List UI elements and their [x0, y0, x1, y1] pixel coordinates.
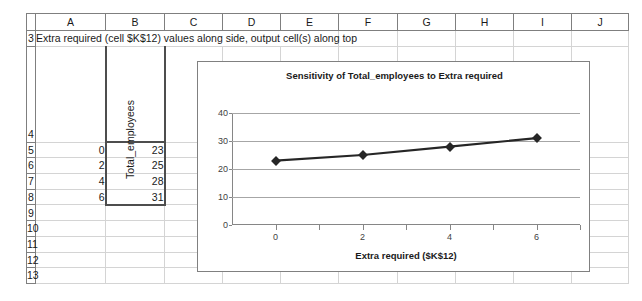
x-tick-mark: [319, 225, 320, 230]
vertical-label: Total_employees: [125, 100, 136, 179]
column-header-a[interactable]: A: [36, 14, 106, 31]
row-header-13[interactable]: 13: [27, 268, 36, 284]
x-axis-label: Extra required ($K$12): [232, 250, 580, 261]
select-all-corner[interactable]: [27, 14, 36, 31]
x-tick-mark: [276, 225, 277, 230]
y-tick-label: 10: [218, 192, 228, 202]
sensitivity-chart[interactable]: Sensitivity of Total_employees to Extra …: [197, 61, 590, 272]
cell-a4[interactable]: [36, 47, 106, 142]
x-tick-mark: [363, 225, 364, 230]
x-tick-mark: [406, 225, 407, 230]
row-header-3[interactable]: 3: [27, 30, 36, 47]
column-header-c[interactable]: C: [165, 14, 223, 31]
column-header-i[interactable]: I: [514, 14, 572, 31]
cell-b13[interactable]: [106, 268, 165, 284]
column-header-d[interactable]: D: [223, 14, 281, 31]
row-header-7[interactable]: 7: [27, 174, 36, 190]
y-tick-label: 40: [218, 108, 228, 118]
cell-b8[interactable]: 31: [106, 189, 165, 205]
cell-a9[interactable]: [36, 205, 106, 221]
spreadsheet-screenshot: A B C D E F G H I J 3 Extra required (ce…: [0, 0, 642, 301]
column-header-b[interactable]: B: [106, 14, 165, 31]
y-tick-label: 30: [218, 136, 228, 146]
x-tick-mark: [537, 225, 538, 230]
cell-a6[interactable]: 2: [36, 158, 106, 174]
row-header-5[interactable]: 5: [27, 142, 36, 158]
cell-b9[interactable]: [106, 205, 165, 221]
x-tick-mark: [493, 225, 494, 230]
cell-a7[interactable]: 4: [36, 174, 106, 190]
x-tick-mark: [450, 225, 451, 230]
column-header-h[interactable]: H: [456, 14, 514, 31]
y-tick-mark: [229, 225, 232, 226]
x-tick-label: 0: [273, 232, 278, 242]
cell-g3[interactable]: [398, 30, 456, 47]
row-header-8[interactable]: 8: [27, 189, 36, 205]
column-header-row[interactable]: A B C D E F G H I J: [27, 14, 629, 31]
cell-a3-note[interactable]: Extra required (cell $K$12) values along…: [36, 30, 339, 47]
cell-b4-total-employees-header[interactable]: Total_employees: [106, 47, 165, 142]
column-header-j[interactable]: J: [572, 14, 629, 31]
y-tick-label: 20: [218, 164, 228, 174]
x-tick-label: 6: [534, 232, 539, 242]
cell-a10[interactable]: [36, 221, 106, 237]
column-header-g[interactable]: G: [398, 14, 456, 31]
cell-a11[interactable]: [36, 236, 106, 252]
column-header-e[interactable]: E: [281, 14, 339, 31]
x-tick-label: 2: [360, 232, 365, 242]
cell-a8[interactable]: 6: [36, 189, 106, 205]
x-tick-label: 4: [447, 232, 452, 242]
table-row[interactable]: 3 Extra required (cell $K$12) values alo…: [27, 30, 629, 47]
cell-j3[interactable]: [572, 30, 629, 47]
row-header-9[interactable]: 9: [27, 205, 36, 221]
row-header-6[interactable]: 6: [27, 158, 36, 174]
cell-i3[interactable]: [514, 30, 572, 47]
cell-b11[interactable]: [106, 236, 165, 252]
cell-b12[interactable]: [106, 252, 165, 268]
row-header-4[interactable]: 4: [27, 47, 36, 142]
cell-a5[interactable]: 0: [36, 142, 106, 158]
x-tick-mark: [580, 225, 581, 230]
cell-a13[interactable]: [36, 268, 106, 284]
chart-title: Sensitivity of Total_employees to Extra …: [226, 70, 563, 82]
column-header-f[interactable]: F: [339, 14, 398, 31]
row-header-10[interactable]: 10: [27, 221, 36, 237]
chart-plot-area: 010203040 0246: [232, 113, 580, 225]
data-line: [232, 113, 580, 225]
cell-a12[interactable]: [36, 252, 106, 268]
cell-b10[interactable]: [106, 221, 165, 237]
y-tick-label: 0: [223, 220, 228, 230]
row-header-11[interactable]: 11: [27, 236, 36, 252]
cell-h3[interactable]: [456, 30, 514, 47]
row-header-12[interactable]: 12: [27, 252, 36, 268]
